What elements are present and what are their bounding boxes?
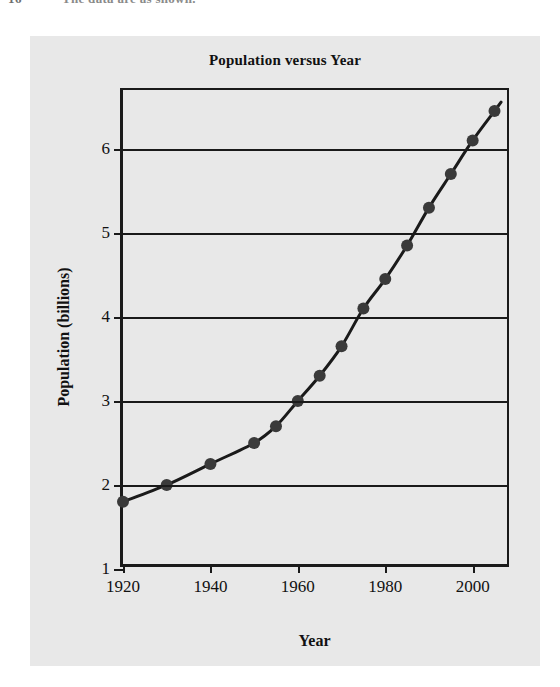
y-tick-label-6: 6 [102, 139, 111, 159]
y-axis-label: Population (billions) [55, 187, 73, 487]
data-point-1985 [401, 239, 413, 251]
y-tick-6 [114, 149, 123, 151]
data-point-1975 [357, 302, 369, 314]
y-tick-4 [114, 317, 123, 319]
x-axis-label: Year [120, 632, 509, 650]
y-tick-label-1: 1 [102, 559, 111, 579]
data-point-1990 [423, 202, 435, 214]
data-point-1950 [248, 437, 260, 449]
y-tick-3 [114, 401, 123, 403]
figure-panel: Population versus Year 12345619201940196… [30, 36, 540, 666]
data-point-1980 [379, 273, 391, 285]
y-tick-2 [114, 485, 123, 487]
x-tick-label-1980: 1980 [368, 577, 402, 597]
data-point-1965 [314, 370, 326, 382]
running-header-text: The data are as shown. [62, 0, 196, 5]
x-tick-1960 [298, 564, 300, 573]
y-tick-label-3: 3 [102, 391, 111, 411]
x-tick-label-1940: 1940 [193, 577, 227, 597]
x-tick-1940 [210, 564, 212, 573]
y-tick-label-2: 2 [102, 475, 111, 495]
gridline-y-6 [123, 149, 507, 151]
page-running-header: 16 The data are as shown. [0, 0, 560, 5]
chart-title: Population versus Year [30, 52, 540, 69]
fit-curve [123, 102, 501, 502]
data-point-1995 [445, 168, 457, 180]
data-point-1920 [117, 496, 129, 508]
data-point-1955 [270, 420, 282, 432]
x-tick-1920 [123, 564, 125, 573]
y-tick-1 [114, 569, 123, 571]
gridline-y-4 [123, 317, 507, 319]
y-tick-label-4: 4 [102, 307, 111, 327]
data-point-2000 [467, 134, 479, 146]
page-number: 16 [8, 0, 22, 5]
x-tick-label-2000: 2000 [456, 577, 490, 597]
gridline-y-5 [123, 233, 507, 235]
data-point-1970 [336, 340, 348, 352]
x-tick-label-1920: 1920 [106, 577, 140, 597]
gridline-y-3 [123, 401, 507, 403]
y-tick-5 [114, 233, 123, 235]
x-tick-2000 [473, 564, 475, 573]
x-tick-label-1960: 1960 [281, 577, 315, 597]
x-tick-1980 [385, 564, 387, 573]
data-point-1940 [204, 458, 216, 470]
gridline-y-2 [123, 485, 507, 487]
plot-svg [123, 90, 512, 569]
data-point-2005 [489, 105, 501, 117]
plot-area: 12345619201940196019802000 [120, 88, 509, 567]
y-tick-label-5: 5 [102, 223, 111, 243]
